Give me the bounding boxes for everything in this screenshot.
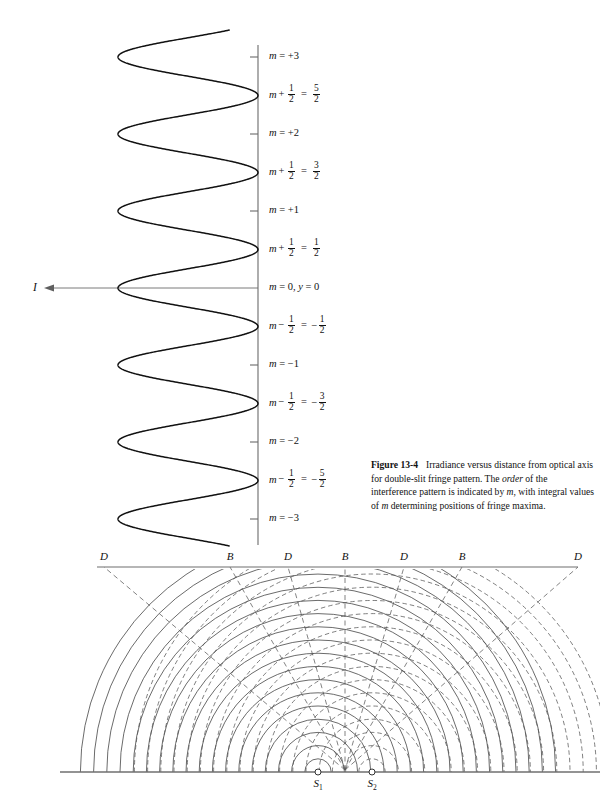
fringe-marker-dark-4: D	[400, 550, 408, 562]
wavefront-arcs-source-2	[134, 534, 609, 772]
fringe-radial-b-5	[345, 567, 462, 770]
fringe-marker-dark-0: D	[100, 550, 108, 562]
wavefront-arc	[134, 534, 609, 772]
wavefront-arcs-source-1	[80, 535, 555, 772]
figure-13-4: m = +3m+12 = 52m = +2m+12 = 32m = +1m+12…	[0, 0, 612, 801]
source-label-2: S2	[367, 777, 376, 792]
fringe-radial-b-1	[230, 567, 345, 770]
wavefront-arc	[174, 574, 570, 772]
wavefront-arc	[346, 746, 399, 772]
fringe-marker-dark-6: D	[574, 550, 582, 562]
wavefront-arc	[146, 600, 489, 772]
wavefront-arc	[278, 732, 357, 772]
source-label-1: S1	[313, 777, 322, 792]
source-dot-1	[315, 769, 321, 775]
wavefront-interference-diagram	[0, 0, 612, 801]
fringe-marker-dark-2: D	[284, 550, 292, 562]
fringe-radial-d-6	[345, 567, 578, 770]
wavefront-arc	[199, 653, 437, 772]
fringe-marker-bright-5: B	[459, 550, 466, 562]
fringe-marker-bright-1: B	[227, 550, 234, 562]
source-dot-2	[369, 769, 375, 775]
fringe-marker-bright-3: B	[342, 550, 349, 562]
